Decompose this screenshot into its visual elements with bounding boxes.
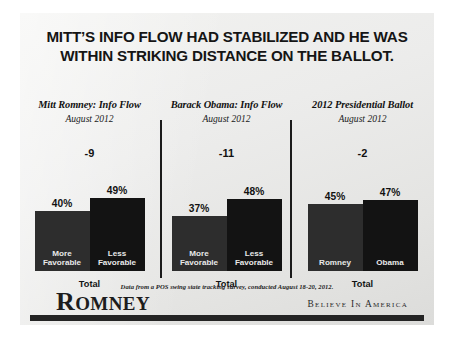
footer-bar (30, 315, 424, 321)
bar-group-more-favorable: 40% MoreFavorable (35, 175, 90, 271)
bar: MoreFavorable (35, 211, 90, 271)
bar-value-label: 47% (363, 187, 418, 198)
logo-wordmark: OMNEY (75, 293, 150, 315)
net-score: -2 (297, 147, 428, 159)
net-score: -11 (161, 147, 292, 159)
bar: MoreFavorable (172, 216, 227, 271)
bar-category-label: LessFavorable (227, 250, 282, 268)
bar-group-less-favorable: 49% LessFavorable (90, 175, 145, 271)
bar-category-label: MoreFavorable (172, 250, 227, 268)
bar-value-label: 48% (227, 186, 282, 197)
bar-chart: 45% Romney 47% Obama (297, 175, 428, 271)
bar-group-more-favorable: 37% MoreFavorable (172, 175, 227, 271)
chart-title: Barack Obama: Info Flow (161, 99, 292, 111)
chart-subtitle: August 2012 (24, 113, 155, 124)
bar: LessFavorable (90, 198, 145, 271)
bar-chart: 37% MoreFavorable 48% LessFavorable (161, 175, 292, 271)
chart-panel-romney-info-flow: Mitt Romney: Info Flow August 2012 -9 40… (24, 99, 155, 295)
bar-value-label: 37% (172, 203, 227, 214)
source-note: Data from a POS swing state tracking sur… (20, 283, 434, 290)
bar-group-romney: 45% Romney (308, 175, 363, 271)
net-score: -9 (24, 147, 155, 159)
chart-subtitle: August 2012 (161, 113, 292, 124)
bar-value-label: 40% (35, 198, 90, 209)
romney-logo: ROMNEY (56, 292, 150, 315)
chart-title: Mitt Romney: Info Flow (24, 99, 155, 111)
bar-category-label: Romney (308, 259, 363, 268)
bar-group-obama: 47% Obama (363, 175, 418, 271)
campaign-tagline: Believe In America (308, 299, 408, 309)
bar-category-label: LessFavorable (90, 250, 145, 268)
chart-subtitle: August 2012 (297, 113, 428, 124)
presentation-slide: MITT’S INFO FLOW HAD STABILIZED AND HE W… (20, 13, 434, 325)
chart-title: 2012 Presidential Ballot (297, 99, 428, 111)
bar-category-label: MoreFavorable (35, 250, 90, 268)
chart-panel-presidential-ballot: 2012 Presidential Ballot August 2012 -2 … (297, 99, 428, 295)
bar-category-label: Obama (363, 259, 418, 268)
chart-panel-obama-info-flow: Barack Obama: Info Flow August 2012 -11 … (161, 99, 292, 295)
logo-initial: R (56, 292, 75, 313)
bar: Romney (308, 204, 363, 271)
bar-group-less-favorable: 48% LessFavorable (227, 175, 282, 271)
page-title: MITT’S INFO FLOW HAD STABILIZED AND HE W… (28, 27, 426, 66)
bar-value-label: 45% (308, 191, 363, 202)
bar-chart: 40% MoreFavorable 49% LessFavorable (24, 175, 155, 271)
bar: Obama (363, 200, 418, 271)
bar-value-label: 49% (90, 185, 145, 196)
bar: LessFavorable (227, 199, 282, 271)
